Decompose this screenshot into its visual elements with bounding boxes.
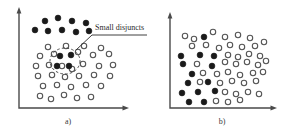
data-point-filled xyxy=(66,63,72,69)
data-point-open xyxy=(33,63,38,68)
data-point-open xyxy=(233,61,238,66)
data-point-open xyxy=(227,42,232,47)
data-point-filled xyxy=(197,52,203,58)
data-point-open xyxy=(61,92,66,97)
data-point-open xyxy=(49,72,54,77)
data-point-open xyxy=(37,93,42,98)
data-point-filled xyxy=(73,29,79,35)
data-point-open xyxy=(245,89,250,94)
data-point-open xyxy=(253,78,258,83)
data-point-open xyxy=(200,70,205,75)
panel-b-x-axis-arrow-icon xyxy=(271,106,278,111)
data-point-open xyxy=(194,61,199,66)
panel-b: b) xyxy=(168,12,277,126)
data-point-open xyxy=(247,35,252,40)
data-point-open xyxy=(252,43,257,48)
data-point-open xyxy=(107,73,112,78)
data-point-open xyxy=(263,58,268,63)
data-point-open xyxy=(235,32,240,37)
data-point-open xyxy=(225,52,230,57)
data-point-open xyxy=(98,83,103,88)
data-point-open xyxy=(237,72,242,77)
data-point-open xyxy=(48,96,53,101)
data-point-open xyxy=(96,63,101,68)
data-point-filled xyxy=(59,27,65,33)
data-point-open xyxy=(88,94,93,99)
data-point-open xyxy=(222,89,227,94)
data-point-open xyxy=(213,98,218,103)
data-point-open xyxy=(74,95,79,100)
data-point-filled xyxy=(32,27,38,33)
data-point-open xyxy=(257,53,262,58)
data-point-filled xyxy=(57,53,63,59)
data-point-open xyxy=(110,62,115,67)
small-disjuncts-label: Small disjuncts xyxy=(95,23,144,32)
data-point-filled xyxy=(209,63,215,69)
data-point-open xyxy=(222,34,227,39)
data-point-open xyxy=(225,99,230,104)
data-point-filled xyxy=(180,61,186,67)
data-point-open xyxy=(40,83,45,88)
data-point-filled xyxy=(185,80,191,86)
data-point-filled xyxy=(45,28,51,34)
data-point-open xyxy=(256,91,261,96)
data-point-filled xyxy=(178,53,184,59)
data-point-open xyxy=(45,44,50,49)
data-point-open xyxy=(54,82,59,87)
figure-container: Small disjuncts a) xyxy=(0,0,291,135)
data-point-open xyxy=(80,61,85,66)
data-point-filled xyxy=(211,53,217,59)
data-point-open xyxy=(241,80,246,85)
data-point-open xyxy=(233,91,238,96)
data-point-open xyxy=(68,84,73,89)
data-point-open xyxy=(239,44,244,49)
data-point-open xyxy=(222,59,227,64)
data-point-filled xyxy=(201,34,207,40)
data-point-filled xyxy=(186,99,192,105)
data-point-open xyxy=(35,73,40,78)
data-point-open xyxy=(191,36,196,41)
panel-a: Small disjuncts a) xyxy=(17,7,147,126)
data-point-filled xyxy=(69,18,75,24)
data-point-filled xyxy=(86,28,92,34)
data-point-filled xyxy=(179,90,185,96)
data-point-open xyxy=(197,79,202,84)
data-point-open xyxy=(62,74,67,79)
panel-a-caption: a) xyxy=(65,117,72,126)
panel-b-caption: b) xyxy=(219,117,226,126)
data-point-open xyxy=(250,70,255,75)
data-point-open xyxy=(235,54,240,59)
data-point-open xyxy=(244,59,249,64)
data-point-open xyxy=(203,42,208,47)
data-point-filled xyxy=(54,63,60,69)
data-point-filled xyxy=(195,89,201,95)
panel-b-y-axis-arrow-icon xyxy=(168,12,173,19)
data-point-open xyxy=(225,69,230,74)
panel-a-y-axis-arrow-icon xyxy=(17,7,22,14)
panel-a-x-axis-arrow-icon xyxy=(123,106,130,111)
data-point-open xyxy=(237,97,242,102)
data-point-open xyxy=(216,45,221,50)
data-point-open xyxy=(229,78,234,83)
data-point-open xyxy=(260,69,265,74)
data-point-open xyxy=(246,51,251,56)
panel-a-open-points xyxy=(33,43,115,101)
data-point-open xyxy=(189,43,194,48)
data-point-open xyxy=(210,29,215,34)
data-point-filled xyxy=(42,18,48,24)
data-point-open xyxy=(217,80,222,85)
data-point-open xyxy=(83,82,88,87)
figure-svg: Small disjuncts a) xyxy=(0,0,291,135)
data-point-open xyxy=(90,52,95,57)
data-point-open xyxy=(106,51,111,56)
small-disjunct-highlight-ellipse xyxy=(50,48,80,74)
data-point-filled xyxy=(68,52,74,58)
data-point-filled xyxy=(205,79,211,85)
data-point-open xyxy=(37,53,42,58)
data-point-filled xyxy=(83,20,89,26)
panel-b-filled-points xyxy=(178,34,218,105)
data-point-open xyxy=(261,39,266,44)
data-point-filled xyxy=(201,99,207,105)
data-point-open xyxy=(182,33,187,38)
data-point-filled xyxy=(55,15,61,21)
